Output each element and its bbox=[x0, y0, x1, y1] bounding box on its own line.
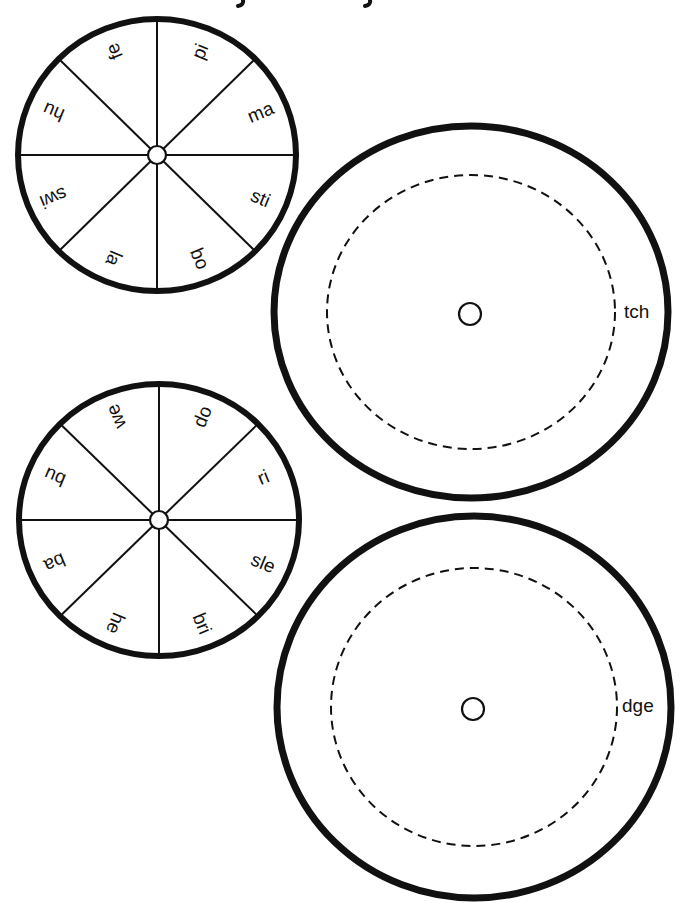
onset-wheel-1[interactable]: pimastibolaswihufe bbox=[18, 19, 296, 291]
segment-label: ri bbox=[254, 465, 272, 488]
spoke-divider bbox=[60, 520, 159, 616]
worksheet-canvas: pimastibolaswihufe dorislebrihebabuwe tc… bbox=[0, 0, 684, 903]
segment-label: swi bbox=[37, 183, 70, 213]
spoke-divider bbox=[157, 59, 255, 155]
ending-label: dge bbox=[622, 695, 654, 716]
segment-label: sti bbox=[248, 185, 274, 212]
ending-wheel-dge[interactable]: dge bbox=[277, 516, 671, 898]
segment-label: he bbox=[102, 610, 129, 638]
segment-label: ma bbox=[244, 97, 277, 127]
spoke-divider bbox=[59, 59, 157, 155]
ending-wheel-tch[interactable]: tch bbox=[274, 126, 668, 498]
segment-label: sle bbox=[248, 549, 278, 578]
segment-label: fe bbox=[101, 40, 126, 63]
segment-label: bri bbox=[188, 610, 215, 638]
segment-label: do bbox=[188, 403, 215, 431]
center-hole[interactable] bbox=[148, 146, 166, 164]
segment-label: bo bbox=[186, 245, 213, 273]
ending-label: tch bbox=[624, 301, 649, 322]
spoke-divider bbox=[59, 155, 157, 251]
spoke-divider bbox=[60, 424, 159, 520]
segment-label: bu bbox=[41, 463, 69, 490]
spoke-divider bbox=[159, 520, 258, 616]
onset-wheel-2[interactable]: dorislebrihebabuwe bbox=[19, 384, 299, 656]
segment-label: ba bbox=[41, 549, 69, 577]
center-hole[interactable] bbox=[462, 698, 484, 720]
segment-label: pi bbox=[187, 41, 212, 63]
segment-label: la bbox=[101, 248, 126, 270]
segment-label: we bbox=[101, 401, 130, 432]
segment-label: hu bbox=[40, 98, 68, 125]
spoke-divider bbox=[159, 424, 258, 520]
spoke-divider bbox=[157, 155, 255, 251]
center-hole[interactable] bbox=[459, 303, 481, 325]
center-hole[interactable] bbox=[150, 511, 168, 529]
cropped-title-fragment bbox=[238, 0, 370, 6]
